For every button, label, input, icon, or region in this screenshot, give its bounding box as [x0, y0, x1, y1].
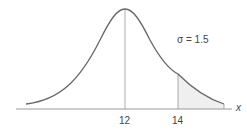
sigma-label: σ = 1.5: [177, 34, 208, 45]
x-axis-label: x: [236, 102, 241, 113]
tick-label-12: 12: [119, 115, 130, 126]
tick-label-14: 14: [172, 115, 183, 126]
shaded-tail: [178, 74, 224, 109]
normal-curve-chart: [0, 0, 247, 134]
